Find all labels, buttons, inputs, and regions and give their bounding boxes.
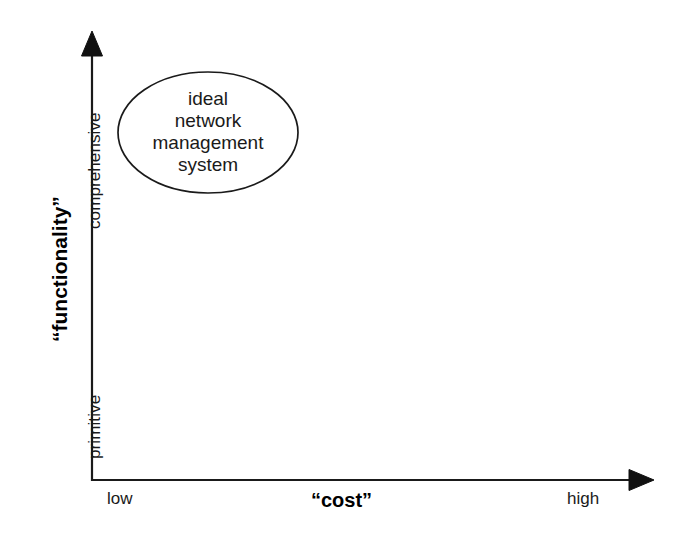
y-axis-title: “functionality” [48,196,72,342]
x-axis-arrowhead [629,470,654,491]
node-line-4: system [118,154,298,176]
y-axis-label-comprehensive: comprehensive [85,112,105,229]
x-axis-label-low: low [107,489,133,509]
x-axis-title: “cost” [311,489,372,512]
diagram-canvas: ideal network management system comprehe… [0,0,685,541]
ideal-system-label: ideal network management system [118,88,298,176]
node-line-2: network [118,110,298,132]
diagram-graphics [0,0,685,541]
node-line-1: ideal [118,88,298,110]
node-line-3: management [118,132,298,154]
y-axis-label-primitive: primitive [85,395,105,459]
y-axis-arrowhead [82,31,103,56]
x-axis-label-high: high [567,489,599,509]
